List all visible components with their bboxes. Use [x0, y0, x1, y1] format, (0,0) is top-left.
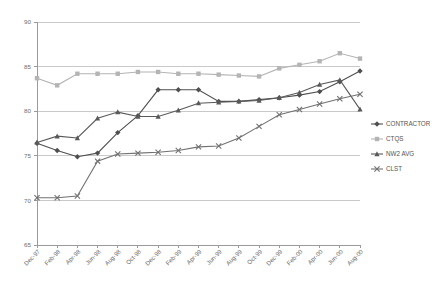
legend-item-label: CLST: [386, 165, 402, 172]
y-tick-label: 80: [24, 107, 31, 114]
data-point-square: [35, 76, 39, 80]
data-point-diamond: [54, 148, 59, 153]
y-tick-label: 65: [24, 241, 31, 248]
data-point-square: [237, 73, 241, 77]
x-tick-label: Dec-98: [143, 247, 162, 266]
data-point-square: [196, 72, 200, 76]
data-point-cross: [256, 124, 261, 129]
y-tick-label: 90: [24, 18, 31, 25]
legend-item-label: CTQS: [386, 135, 404, 143]
x-tick-label: Feb-99: [164, 247, 183, 266]
series-line: [37, 53, 360, 85]
data-point-square: [338, 51, 342, 55]
series-line: [37, 94, 360, 197]
x-tick-label: Oct-99: [245, 247, 263, 265]
x-tick-label: Aug-00: [345, 247, 364, 266]
x-tick-label: Jun-98: [84, 247, 103, 266]
x-tick-label: Aug-98: [103, 247, 122, 266]
legend-item-contractor[interactable]: CONTRACTOR: [371, 120, 431, 127]
gridlines: [37, 22, 360, 200]
y-tick-label: 85: [24, 63, 31, 70]
data-point-square: [176, 72, 180, 76]
y-tick-label: 75: [24, 152, 31, 159]
x-tick-label: Apr-99: [185, 247, 203, 265]
chart-legend: CONTRACTORCTQSNW2 AVGCLST: [371, 120, 431, 172]
data-point-square: [277, 66, 281, 70]
y-tick-label: 70: [24, 197, 31, 204]
x-tick-label: Jun-99: [205, 247, 224, 266]
x-tick-label: Feb-00: [285, 247, 304, 266]
data-point-diamond: [75, 154, 80, 159]
data-point-square: [95, 72, 99, 76]
legend-item-clst[interactable]: CLST: [371, 165, 402, 172]
data-point-diamond: [374, 121, 379, 126]
data-point-square: [317, 59, 321, 63]
data-point-diamond: [196, 87, 201, 92]
x-tick-label: Apr-00: [306, 247, 324, 265]
data-point-square: [75, 72, 79, 76]
series-ctqs: [35, 51, 362, 88]
data-point-square: [55, 83, 59, 87]
x-axis-ticks: Dec-97Feb-98Apr-98Jun-98Aug-98Oct-98Dec-…: [22, 245, 364, 267]
data-point-square: [116, 72, 120, 76]
data-point-square: [156, 70, 160, 74]
chart-container: 657075808590 Dec-97Feb-98Apr-98Jun-98Aug…: [0, 0, 448, 292]
data-point-cross: [236, 135, 241, 140]
x-tick-label: Oct-98: [124, 247, 142, 265]
data-point-diamond: [176, 87, 181, 92]
data-point-cross: [95, 159, 100, 164]
series-group: [34, 51, 362, 200]
data-point-square: [358, 56, 362, 60]
data-point-square: [136, 70, 140, 74]
data-point-triangle: [115, 109, 120, 114]
y-axis-ticks: 657075808590: [24, 18, 37, 248]
data-point-diamond: [317, 89, 322, 94]
legend-item-nw2-avg[interactable]: NW2 AVG: [371, 150, 414, 157]
data-point-square: [297, 63, 301, 67]
x-tick-label: Apr-98: [64, 247, 82, 265]
x-tick-label: Jun-00: [326, 247, 345, 266]
series-line: [37, 71, 360, 157]
data-point-square: [375, 137, 379, 141]
x-tick-label: Dec-97: [22, 247, 41, 266]
line-chart: 657075808590 Dec-97Feb-98Apr-98Jun-98Aug…: [0, 0, 448, 292]
x-tick-label: Dec-99: [265, 247, 284, 266]
legend-item-label: NW2 AVG: [386, 150, 414, 157]
series-clst: [34, 92, 362, 201]
x-tick-label: Aug-99: [224, 247, 243, 266]
data-point-triangle: [337, 77, 342, 82]
legend-item-ctqs[interactable]: CTQS: [371, 135, 404, 143]
series-contractor: [34, 68, 362, 159]
legend-item-label: CONTRACTOR: [386, 120, 431, 127]
x-tick-label: Feb-98: [43, 247, 62, 266]
data-point-diamond: [357, 68, 362, 73]
data-point-square: [216, 72, 220, 76]
data-point-square: [257, 74, 261, 78]
